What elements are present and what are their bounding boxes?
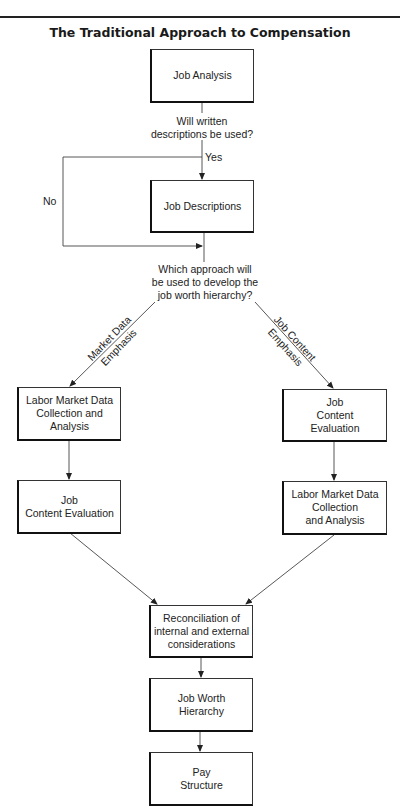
node-job-descriptions: Job Descriptions bbox=[150, 180, 254, 233]
node-label: Job Content Evaluation bbox=[25, 494, 114, 520]
node-right-labor-market-data: Labor Market Data Collection and Analysi… bbox=[282, 481, 387, 535]
node-reconciliation: Reconciliation of internal and external … bbox=[149, 605, 253, 658]
node-label: Job Descriptions bbox=[164, 200, 242, 213]
decision-approach: Which approach will be used to develop t… bbox=[140, 263, 270, 302]
node-label: Labor Market Data Collection and Analysi… bbox=[26, 394, 113, 433]
node-right-job-content-evaluation: Job Content Evaluation bbox=[282, 389, 387, 442]
node-label: Reconciliation of internal and external … bbox=[154, 612, 249, 651]
connector-left-to-reconciliation bbox=[70, 533, 157, 604]
node-job-analysis: Job Analysis bbox=[150, 49, 254, 103]
node-label: Pay Structure bbox=[180, 766, 223, 792]
node-label: Job Analysis bbox=[173, 69, 231, 82]
edge-label-no: No bbox=[43, 195, 61, 208]
node-job-worth-hierarchy: Job Worth Hierarchy bbox=[149, 678, 253, 732]
node-pay-structure: Pay Structure bbox=[149, 752, 253, 806]
edge-label-yes: Yes bbox=[205, 151, 225, 164]
node-left-job-content-evaluation: Job Content Evaluation bbox=[17, 480, 121, 534]
node-left-labor-market-data: Labor Market Data Collection and Analysi… bbox=[17, 387, 121, 441]
node-label: Job Worth Hierarchy bbox=[178, 692, 226, 718]
node-label: Labor Market Data Collection and Analysi… bbox=[292, 488, 379, 527]
node-label: Job Content Evaluation bbox=[310, 396, 359, 435]
decision-written-descriptions: Will written descriptions be used? bbox=[140, 115, 264, 141]
connector-right-to-reconciliation bbox=[246, 535, 334, 604]
